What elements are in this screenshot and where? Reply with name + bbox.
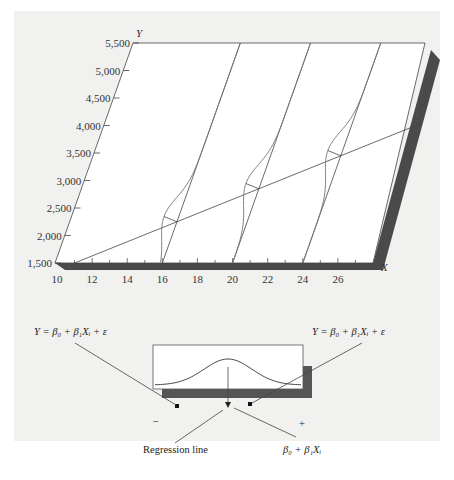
mean-label: β₀ + β₁Xᵢ: [282, 444, 322, 455]
right-point-marker: [248, 402, 252, 406]
minus-label: −: [153, 416, 159, 427]
x-tick-label: 22: [262, 273, 273, 285]
regression-line-label: Regression line: [143, 444, 208, 455]
right-equation: Y = β₀ + β₁Xᵢ + ε: [312, 326, 386, 337]
x-tick-label: 24: [297, 273, 309, 285]
y-tick-label: 4,500: [86, 92, 111, 104]
x-tick-label: 16: [157, 273, 169, 285]
y-tick-label: 2,500: [47, 202, 72, 214]
y-tick-label: 5,000: [96, 65, 121, 77]
y-tick-label: 4,000: [76, 120, 101, 132]
plus-label: +: [299, 418, 305, 429]
x-tick-label: 18: [192, 273, 204, 285]
x-axis-label: X: [380, 261, 389, 273]
x-tick-label: 10: [52, 273, 64, 285]
y-tick-label: 2,000: [37, 230, 62, 242]
y-tick-label: 1,500: [27, 257, 52, 269]
y-tick-label: 3,000: [57, 175, 82, 187]
x-tick-label: 26: [332, 273, 344, 285]
y-tick-label: 3,500: [66, 147, 91, 159]
x-tick-label: 12: [87, 273, 98, 285]
x-tick-label: 20: [227, 273, 239, 285]
left-equation: Y = β₀ + β₁Xᵢ + ε: [34, 326, 108, 337]
y-tick-label: 5,500: [105, 37, 130, 49]
x-tick-label: 14: [122, 273, 134, 285]
regression-diagram: 1,5002,0002,5003,0003,5004,0004,5005,000…: [0, 0, 454, 480]
